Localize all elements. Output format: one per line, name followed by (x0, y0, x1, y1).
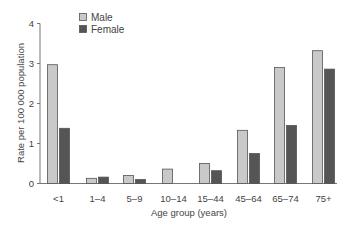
bar-male (124, 176, 134, 184)
y-tick-label: 1 (29, 138, 34, 149)
bars (48, 51, 335, 184)
y-tick-label: 0 (29, 178, 34, 189)
x-tick-label: 1–4 (90, 193, 106, 204)
y-tick-label: 4 (29, 18, 34, 29)
bar-male (48, 65, 58, 184)
legend-label-male: Male (91, 12, 113, 23)
x-tick-label: 15–44 (197, 193, 223, 204)
bar-female (250, 154, 260, 184)
legend: MaleFemale (80, 12, 125, 35)
legend-swatch-male (80, 14, 87, 21)
bar-female (99, 177, 109, 183)
bar-male (238, 130, 248, 183)
legend-label-female: Female (91, 24, 125, 35)
bar-female (136, 180, 146, 184)
x-tick-label: 45–64 (235, 193, 261, 204)
y-axis: 01234 (29, 18, 40, 189)
legend-swatch-female (80, 26, 87, 33)
bar-female (325, 69, 335, 183)
bar-chart: 01234 <11–45–910–1415–4445–6465–7475+ Ma… (0, 0, 347, 229)
bar-female (60, 128, 70, 183)
x-tick-label: 75+ (315, 193, 332, 204)
bar-female (212, 171, 222, 184)
x-tick-label: 65–74 (272, 193, 298, 204)
x-tick-label: 10–14 (160, 193, 186, 204)
y-tick-label: 3 (29, 58, 34, 69)
x-tick-label: 5–9 (127, 193, 143, 204)
bar-male (275, 68, 285, 184)
bar-male (87, 178, 97, 183)
bar-male (163, 169, 173, 183)
x-axis-title: Age group (years) (151, 207, 227, 218)
y-tick-label: 2 (29, 98, 34, 109)
x-tick-label: <1 (53, 193, 64, 204)
bar-male (200, 164, 210, 184)
x-axis: <11–45–910–1415–4445–6465–7475+ (40, 184, 337, 205)
bar-female (287, 126, 297, 184)
bar-male (313, 51, 323, 184)
y-axis-title: Rate per 100 000 population (15, 43, 26, 163)
